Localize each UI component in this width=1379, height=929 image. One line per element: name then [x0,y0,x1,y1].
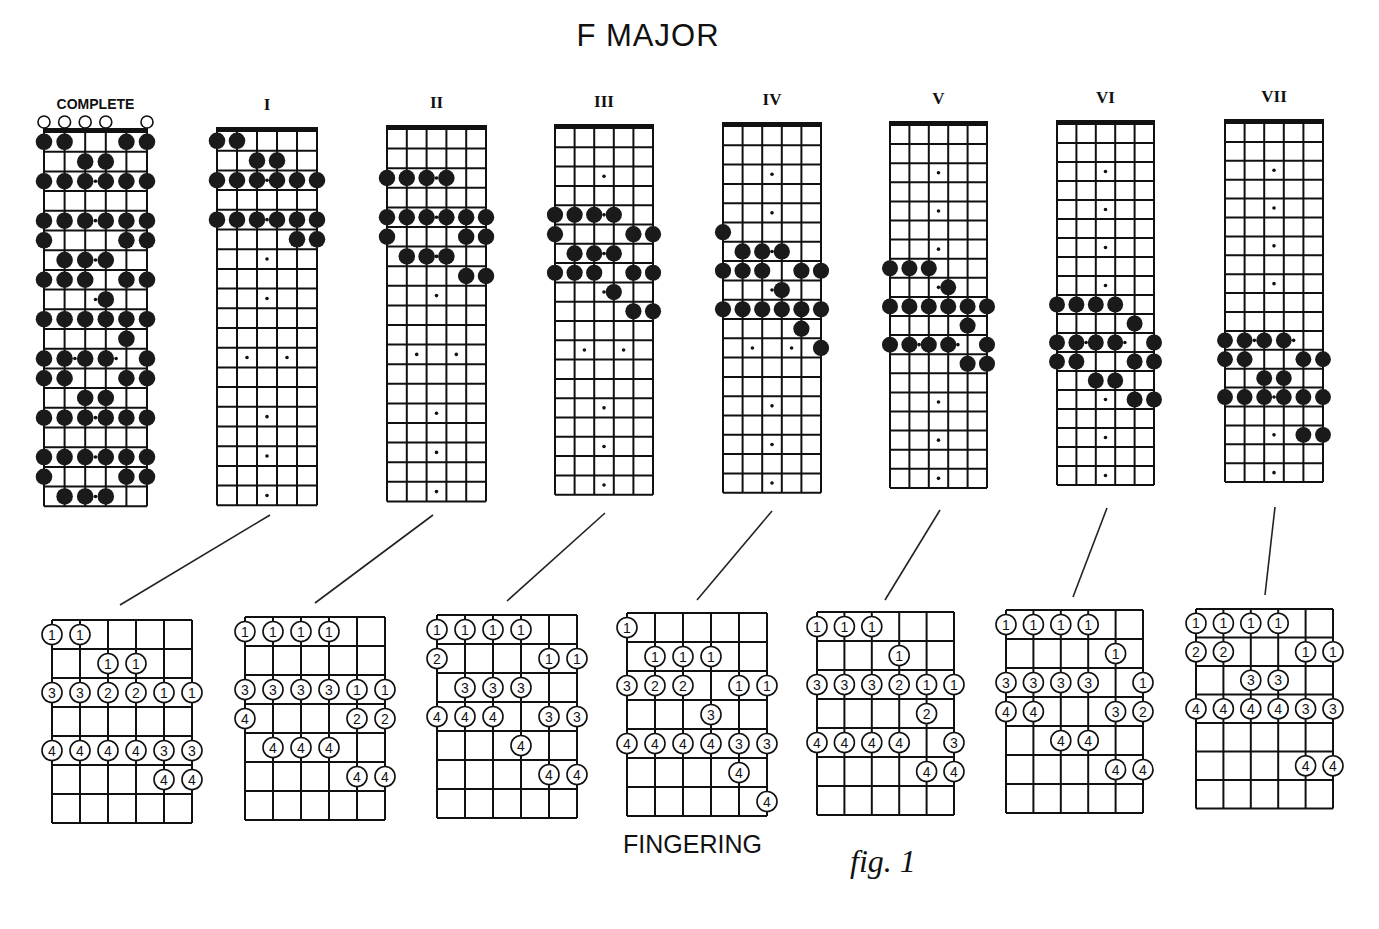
inlay-dot-icon [770,172,774,176]
finger-number: 2 [381,711,389,727]
note-dot-icon [458,268,474,284]
finger-number: 3 [841,677,849,693]
inlay-dot-icon [602,252,606,256]
note-dot-icon [1107,373,1123,389]
finger-number: 1 [1302,644,1310,660]
finger-number: 3 [517,680,525,696]
note-dot-icon [1295,351,1311,367]
note-dot-icon [1127,354,1143,370]
inlay-dot-icon [956,343,960,347]
note-dot-icon [793,321,809,337]
inlay-dot-icon [265,454,269,458]
note-dot-icon [309,211,326,228]
note-dot-icon [399,170,415,186]
inlay-dot-icon [1272,471,1276,475]
note-dot-icon [940,298,956,314]
fretboard-position-I [209,127,326,505]
note-dot-icon [249,152,266,169]
note-dot-icon [418,170,434,186]
finger-number: 1 [1220,615,1228,631]
inlay-dot-icon [1272,244,1276,248]
note-dot-icon [882,298,898,314]
note-dot-icon [77,252,94,269]
inlay-dot-icon [1123,341,1127,345]
finger-number: 3 [188,743,196,759]
inlay-dot-icon [435,451,439,455]
finger-number: 2 [679,678,687,694]
finger-number: 3 [297,682,305,698]
note-dot-icon [249,211,266,228]
note-dot-icon [1276,389,1292,405]
note-dot-icon [1217,332,1233,348]
inlay-dot-icon [1253,339,1257,343]
inlay-dot-icon [937,286,941,290]
note-dot-icon [774,301,790,317]
finger-number: 4 [132,743,140,759]
finger-number: 3 [1302,701,1310,717]
note-dot-icon [960,356,976,372]
note-dot-icon [77,212,94,229]
note-dot-icon [586,207,602,223]
inlay-dot-icon [245,356,249,360]
finger-number: 4 [76,743,84,759]
inlay-dot-icon [415,353,419,357]
note-dot-icon [921,337,937,353]
connector-line [1265,507,1275,595]
finger-number: 4 [707,736,715,752]
open-string-icon [100,116,112,128]
note-dot-icon [1217,389,1233,405]
finger-number: 1 [517,622,525,638]
finger-number: 1 [76,627,84,643]
inlay-dot-icon [285,356,289,360]
note-dot-icon [438,248,454,264]
inlay-dot-icon [94,495,98,499]
finger-number: 4 [1329,758,1337,774]
note-dot-icon [139,271,156,288]
note-dot-icon [921,298,937,314]
finger-number: 1 [325,624,333,640]
finger-number: 3 [325,682,333,698]
inlay-dot-icon [583,348,587,352]
fretboard-position-II [379,125,494,501]
finger-number: 4 [1084,733,1092,749]
finger-number: 1 [623,620,631,636]
note-dot-icon [98,212,115,229]
note-dot-icon [77,488,94,505]
inlay-dot-icon [917,343,921,347]
finger-number: 3 [623,678,631,694]
inlay-dot-icon [435,176,439,180]
note-dot-icon [379,229,395,245]
open-string-icon [38,116,50,128]
finger-number: 4 [895,735,903,751]
inlay-dot-icon [94,298,98,302]
note-dot-icon [98,252,115,269]
note-dot-icon [36,311,53,328]
inlay-dot-icon [94,179,98,183]
finger-number: 4 [1192,701,1200,717]
finger-number: 1 [545,651,553,667]
finger-number: 4 [841,735,849,751]
note-dot-icon [36,134,53,151]
inlay-dot-icon [770,250,774,254]
finger-number: 1 [104,656,112,672]
note-dot-icon [586,245,602,261]
note-dot-icon [1256,389,1272,405]
inlay-dot-icon [1104,208,1108,212]
finger-number: 3 [489,680,497,696]
note-dot-icon [901,260,917,276]
finger-number: 3 [160,743,168,759]
note-dot-icon [36,271,53,288]
finger-number: 4 [353,769,361,785]
note-dot-icon [547,207,563,223]
note-dot-icon [793,263,809,279]
inlay-dot-icon [1104,284,1108,288]
inlay-dot-icon [622,348,626,352]
finger-number: 3 [707,707,715,723]
note-dot-icon [118,409,135,426]
note-dot-icon [458,229,474,245]
finger-number: 3 [950,735,958,751]
note-dot-icon [56,449,73,466]
connector-line [315,515,433,603]
fretboard-position-IV [715,122,829,493]
finger-number: 1 [489,622,497,638]
